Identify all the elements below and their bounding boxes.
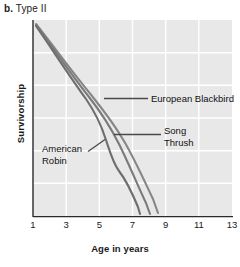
x-tick-label: 11 [189,219,209,231]
label-european-blackbird: European Blackbird [151,93,234,104]
x-tick-label: 3 [56,219,76,231]
label-song-thrush-line2: Thrush [164,137,194,148]
x-tick-label: 9 [156,219,176,231]
x-tick-label: 1 [23,219,43,231]
label-american-robin-line2: Robin [42,155,67,166]
x-tick-label: 5 [89,219,109,231]
label-song-thrush-line1: Song [164,125,186,136]
x-tick-label: 13 [222,219,240,231]
x-axis-label: Age in years [0,243,240,254]
survivorship-figure: b. Type II Survivorship [0,0,240,267]
x-axis-ticks: 135791113 [33,219,232,233]
label-american-robin-line1: American [42,143,82,154]
x-tick-label: 7 [123,219,143,231]
